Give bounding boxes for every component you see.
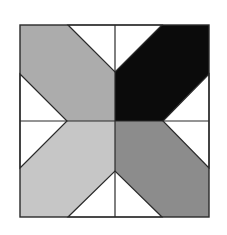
quilt-block-diagram (0, 0, 227, 235)
